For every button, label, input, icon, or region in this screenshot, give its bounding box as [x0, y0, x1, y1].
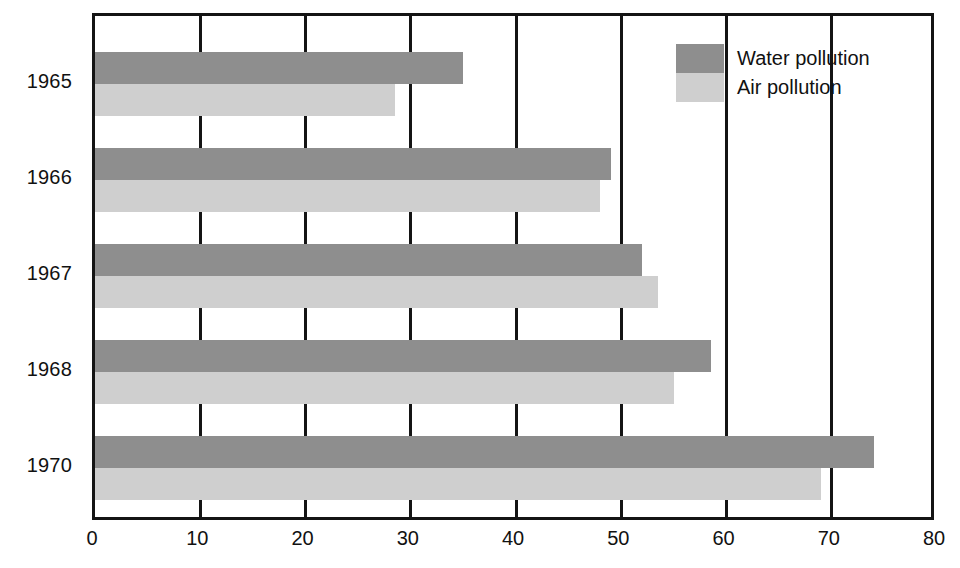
bar-1970-air — [95, 468, 821, 500]
bar-1968-water — [95, 340, 711, 372]
x-axis-tick-30: 30 — [397, 527, 419, 550]
bar-1965-air — [95, 84, 395, 116]
bar-1968-air — [95, 372, 674, 404]
bar-chart: 19651966196719681970 01020304050607080 W… — [0, 0, 960, 568]
bar-1965-water — [95, 52, 463, 84]
x-axis-tick-80: 80 — [923, 527, 945, 550]
y-axis-label-1970: 1970 — [0, 454, 72, 477]
bar-1967-water — [95, 244, 642, 276]
legend-label-water: Water pollution — [737, 47, 870, 70]
bar-1967-air — [95, 276, 658, 308]
x-axis-tick-60: 60 — [712, 527, 734, 550]
bar-1970-water — [95, 436, 874, 468]
y-axis-label-1965: 1965 — [0, 70, 72, 93]
legend-swatch-air-icon — [676, 73, 724, 102]
x-axis-tick-40: 40 — [502, 527, 524, 550]
x-axis-tick-70: 70 — [818, 527, 840, 550]
legend-item-water: Water pollution — [676, 44, 870, 73]
legend: Water pollution Air pollution — [676, 44, 870, 102]
y-axis-labels: 19651966196719681970 — [0, 13, 72, 520]
x-axis-tick-0: 0 — [86, 527, 97, 550]
x-axis-tick-10: 10 — [186, 527, 208, 550]
x-axis-tick-50: 50 — [607, 527, 629, 550]
bar-1966-air — [95, 180, 600, 212]
x-axis-tick-labels: 01020304050607080 — [92, 527, 934, 559]
legend-swatch-water-icon — [676, 44, 724, 73]
legend-item-air: Air pollution — [676, 73, 870, 102]
x-axis-tick-20: 20 — [291, 527, 313, 550]
bar-1966-water — [95, 148, 611, 180]
y-axis-label-1968: 1968 — [0, 358, 72, 381]
y-axis-label-1967: 1967 — [0, 262, 72, 285]
legend-label-air: Air pollution — [737, 76, 842, 99]
y-axis-label-1966: 1966 — [0, 166, 72, 189]
